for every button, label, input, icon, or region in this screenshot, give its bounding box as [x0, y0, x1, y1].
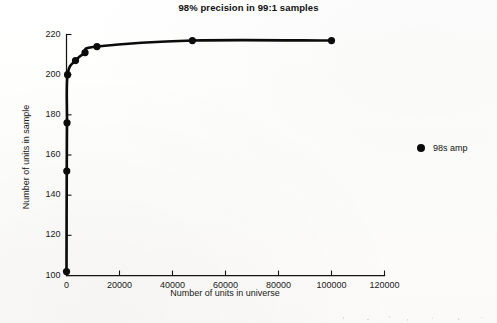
y-tick-label: 200 — [45, 69, 60, 79]
data-point-marker — [189, 37, 196, 44]
y-tick-label: 220 — [45, 29, 60, 39]
data-series-98s-amp — [63, 37, 335, 275]
y-tick-label: 160 — [45, 149, 60, 159]
y-tick-label: 180 — [45, 109, 60, 119]
chart-figure: 98% precision in 99:1 samples 1001201401… — [0, 0, 497, 323]
chart-legend: 98s amp — [417, 143, 468, 153]
series-markers-98s-amp — [63, 37, 335, 275]
plot-canvas — [0, 0, 497, 323]
data-point-marker — [328, 37, 335, 44]
axes-group — [67, 35, 385, 276]
series-line-98s-amp — [67, 40, 332, 271]
data-point-marker — [81, 49, 88, 56]
y-tick-label: 120 — [45, 229, 60, 239]
y-axis-title: Number of units in sample — [21, 67, 31, 247]
data-point-marker — [63, 167, 70, 174]
data-point-marker — [63, 268, 70, 275]
y-tick-label: 140 — [45, 189, 60, 199]
filled-circle-icon — [417, 144, 425, 152]
legend-entry-label: 98s amp — [433, 143, 468, 153]
data-point-marker — [64, 71, 71, 78]
data-point-marker — [93, 43, 100, 50]
data-point-marker — [72, 57, 79, 64]
data-point-marker — [63, 119, 70, 126]
x-axis-ticks — [67, 271, 385, 276]
y-tick-label: 100 — [45, 270, 60, 280]
x-axis-title: Number of units in universe — [66, 288, 384, 298]
